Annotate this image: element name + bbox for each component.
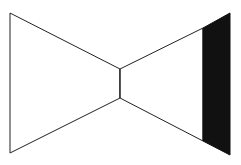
bowtie-diagram (0, 0, 241, 165)
left-triangle (10, 13, 120, 153)
right-wing (120, 28, 203, 141)
black-band (203, 13, 230, 155)
